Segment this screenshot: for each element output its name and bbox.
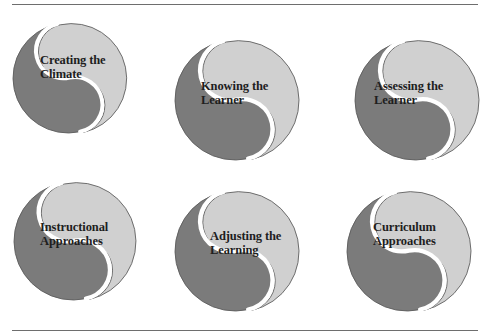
label-line-2: Approaches [373, 235, 436, 249]
top-rule [12, 4, 478, 5]
label-line-2: Climate [40, 68, 106, 82]
label-line-2: Approaches [40, 235, 108, 249]
node-label: Assessing the Learner [374, 80, 443, 107]
bottom-rule [12, 330, 478, 331]
node-label: Instructional Approaches [40, 221, 108, 248]
node-curriculum-approaches: Curriculum Approaches [344, 188, 470, 314]
node-label: Adjusting the Learning [210, 230, 281, 257]
node-label: Knowing the Learner [201, 80, 268, 107]
label-line-1: Instructional [40, 221, 108, 235]
node-knowing-the-learner: Knowing the Learner [172, 37, 298, 163]
node-adjusting-the-learning: Adjusting the Learning [172, 188, 298, 314]
yin-yang-icon [344, 188, 470, 314]
node-assessing-the-learner: Assessing the Learner [352, 37, 478, 163]
label-line-1: Assessing the [374, 80, 443, 94]
node-label: Curriculum Approaches [373, 221, 436, 248]
node-creating-the-climate: Creating the Climate [10, 20, 126, 136]
node-instructional-approaches: Instructional Approaches [11, 179, 135, 303]
label-line-2: Learner [201, 94, 268, 108]
node-label: Creating the Climate [40, 54, 106, 81]
label-line-1: Adjusting the [210, 230, 281, 244]
label-line-1: Curriculum [373, 221, 436, 235]
label-line-1: Knowing the [201, 80, 268, 94]
label-line-2: Learning [210, 244, 281, 258]
label-line-1: Creating the [40, 54, 106, 68]
label-line-2: Learner [374, 94, 443, 108]
